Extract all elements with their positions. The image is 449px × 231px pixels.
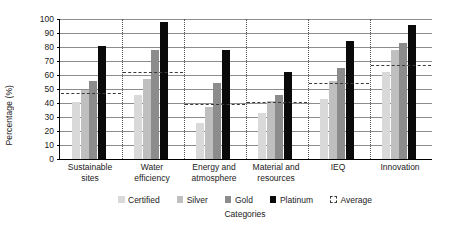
legend-item-platinum[interactable]: Platinum <box>270 195 313 205</box>
bar-certified <box>72 102 80 159</box>
bar-gold <box>213 83 221 159</box>
y-axis-title-text: Percentage (%) <box>4 85 14 145</box>
y-axis-tick-label: 20 <box>32 127 54 136</box>
x-axis-title: Categories <box>59 209 431 219</box>
bar-certified <box>382 72 390 159</box>
bar-silver <box>391 50 399 159</box>
legend-swatch-silver-icon <box>177 196 184 203</box>
legend-item-gold[interactable]: Gold <box>225 195 253 205</box>
bar-gold <box>399 43 407 159</box>
bar-group <box>246 19 308 159</box>
average-line <box>247 102 307 103</box>
bar-certified <box>258 113 266 159</box>
bar-platinum <box>346 41 354 159</box>
plot-area: 0102030405060708090100 <box>59 19 432 160</box>
legend-label: Silver <box>187 195 208 205</box>
average-line <box>371 65 431 66</box>
y-axis-tick-label: 70 <box>32 57 54 66</box>
y-axis-tick-label: 40 <box>32 99 54 108</box>
legend-label: Average <box>340 195 372 205</box>
bar-chart: Percentage (%) 0102030405060708090100 Su… <box>0 0 449 231</box>
bar-group <box>370 19 432 159</box>
y-axis-title: Percentage (%) <box>2 60 16 170</box>
bar-certified <box>196 123 204 159</box>
legend-label: Gold <box>235 195 253 205</box>
average-line <box>185 104 245 105</box>
bar-group <box>122 19 184 159</box>
bar-group <box>184 19 246 159</box>
average-line <box>309 83 369 84</box>
x-axis-tick-label-line: resources <box>237 173 315 184</box>
legend-label: Certified <box>128 195 160 205</box>
legend-swatch-platinum-icon <box>270 196 277 203</box>
bar-silver <box>143 79 151 160</box>
y-axis-tick-mark <box>57 159 61 160</box>
legend-label: Platinum <box>280 195 313 205</box>
y-axis-tick-label: 100 <box>32 15 54 24</box>
y-axis-tick-label: 10 <box>32 141 54 150</box>
bar-silver <box>329 81 337 159</box>
legend-swatch-gold-icon <box>225 196 232 203</box>
legend-item-certified[interactable]: Certified <box>118 195 160 205</box>
y-axis-tick-label: 80 <box>32 43 54 52</box>
bar-silver <box>81 90 89 159</box>
y-axis-tick-label: 90 <box>32 29 54 38</box>
bar-silver <box>267 101 275 159</box>
bar-platinum <box>408 25 416 159</box>
bar-group <box>60 19 122 159</box>
x-axis-tick-label: Innovation <box>361 162 439 173</box>
bar-platinum <box>98 46 106 159</box>
y-axis-tick-label: 60 <box>32 71 54 80</box>
bar-gold <box>337 68 345 159</box>
average-line <box>123 72 183 73</box>
legend-swatch-certified-icon <box>118 196 125 203</box>
bar-certified <box>134 95 142 159</box>
legend-item-silver[interactable]: Silver <box>177 195 208 205</box>
bar-gold <box>151 50 159 159</box>
bar-platinum <box>160 22 168 159</box>
chart-legend: CertifiedSilverGoldPlatinumAverage <box>59 193 431 206</box>
y-axis-tick-label: 50 <box>32 85 54 94</box>
average-line <box>61 93 121 94</box>
bar-certified <box>320 99 328 159</box>
bar-platinum <box>284 72 292 159</box>
x-axis-tick-label-line: Innovation <box>361 162 439 173</box>
bar-silver <box>205 107 213 160</box>
y-axis-tick-label: 30 <box>32 113 54 122</box>
legend-swatch-average-icon <box>330 196 337 203</box>
legend-item-average[interactable]: Average <box>330 195 372 205</box>
bar-gold <box>275 95 283 159</box>
bar-group <box>308 19 370 159</box>
